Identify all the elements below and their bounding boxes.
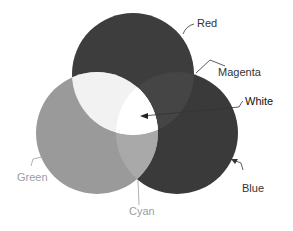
red-leader-line [183, 24, 194, 34]
label-green: Green [17, 171, 48, 183]
label-cyan: Cyan [129, 205, 155, 217]
green-leader-line [31, 157, 42, 166]
label-magenta: Magenta [218, 66, 262, 78]
label-red: Red [197, 17, 217, 29]
venn-diagram: Red Magenta White Green Cyan Blue [0, 0, 293, 231]
cyan-leader-line [138, 180, 139, 205]
label-white: White [245, 95, 273, 107]
label-blue: Blue [242, 182, 264, 194]
